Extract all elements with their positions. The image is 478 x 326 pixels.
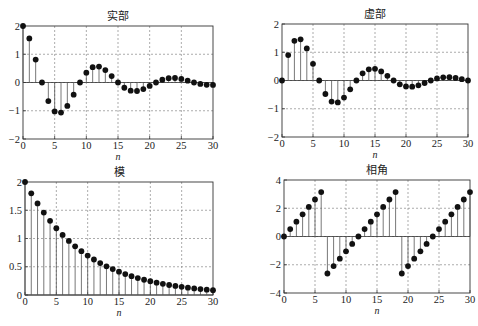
x-tick-label: 20 [145, 296, 156, 307]
x-tick-label: 15 [370, 138, 381, 149]
data-point [64, 103, 70, 109]
x-tick-label: 0 [20, 140, 25, 151]
subplot-phase: 051015202530−4−2024 相角 n [270, 164, 475, 316]
x-tick-label: 15 [372, 294, 383, 305]
data-point [166, 75, 172, 81]
data-point [115, 80, 121, 86]
data-point [197, 81, 203, 87]
data-point [372, 66, 378, 72]
x-axis-label: n [116, 151, 121, 162]
data-point [102, 67, 108, 73]
y-tick-label: 1 [15, 49, 20, 60]
data-point [418, 248, 424, 254]
plot-area: 051015202530−4−2024 [270, 175, 475, 306]
data-point [360, 70, 366, 76]
data-point [399, 271, 405, 277]
data-point [368, 219, 374, 225]
data-point [461, 197, 467, 203]
figure-canvas: 051015202530−2−1012 实部 n 051015202530−2−… [0, 0, 478, 326]
data-point [41, 210, 47, 216]
data-point [306, 204, 312, 210]
data-point [294, 219, 300, 225]
data-point [341, 95, 347, 101]
data-point [281, 234, 287, 240]
data-point [191, 286, 197, 292]
data-point [22, 179, 28, 185]
data-point [20, 23, 26, 29]
subplot-title: 相角 [366, 164, 388, 176]
y-tick-label: 2 [276, 203, 281, 214]
data-point [204, 287, 210, 293]
y-tick-label: 1.5 [9, 205, 22, 216]
data-point [279, 78, 285, 84]
y-tick-label: −2 [270, 259, 281, 270]
data-point [134, 88, 140, 94]
data-point [300, 211, 306, 217]
data-point [428, 78, 434, 84]
x-axis-label: n [373, 149, 378, 160]
data-point [104, 263, 110, 269]
data-point [191, 80, 197, 86]
data-point [210, 287, 216, 293]
data-point [442, 219, 448, 225]
data-point [47, 218, 53, 224]
y-tick-label: −2 [268, 132, 279, 143]
data-point [178, 76, 184, 82]
data-point [447, 74, 453, 80]
data-point [304, 46, 310, 52]
x-tick-label: 5 [52, 140, 57, 151]
x-tick-label: 15 [114, 296, 125, 307]
data-point [128, 88, 134, 94]
y-tick-label: −1 [268, 103, 279, 114]
data-point [35, 201, 41, 207]
x-axis-label: n [117, 307, 122, 318]
data-point [109, 73, 115, 79]
x-tick-label: 30 [208, 140, 219, 151]
data-point [122, 271, 128, 277]
figure: 051015202530−2−1012 实部 n 051015202530−2−… [0, 0, 478, 326]
plot-area: 05101520253000.511.52 [9, 177, 218, 308]
x-tick-label: 25 [176, 296, 187, 307]
data-point [405, 263, 411, 269]
stems [22, 179, 216, 295]
data-point [71, 92, 77, 98]
data-point [83, 70, 89, 76]
data-point [356, 234, 362, 240]
x-tick-label: 10 [341, 294, 352, 305]
data-point [179, 284, 185, 290]
data-point [366, 66, 372, 72]
plot-area: 051015202530−2−1012 [9, 21, 218, 152]
y-tick-label: 0.5 [9, 261, 22, 272]
subplot-title: 实部 [107, 9, 129, 22]
data-point [45, 98, 51, 104]
data-point [325, 271, 331, 277]
x-tick-label: 30 [208, 296, 219, 307]
y-tick-label: 1 [17, 233, 22, 244]
data-point [467, 189, 473, 195]
x-tick-label: 10 [82, 296, 93, 307]
subplot-real: 051015202530−2−1012 实部 n [9, 9, 218, 162]
data-point [52, 108, 58, 114]
data-point [39, 80, 45, 86]
data-point [60, 232, 66, 238]
data-point [409, 84, 415, 90]
data-point [310, 61, 316, 67]
data-point [292, 38, 298, 44]
y-tick-label: 2 [15, 21, 20, 32]
data-point [298, 36, 304, 42]
plot-area: 051015202530−2−1012 [268, 19, 473, 150]
y-tick-label: 2 [274, 19, 279, 30]
data-point [160, 281, 166, 287]
data-point [166, 282, 172, 288]
data-point [172, 75, 178, 81]
data-point [316, 78, 322, 84]
data-point [323, 91, 329, 97]
data-point [329, 99, 335, 105]
data-point [185, 78, 191, 84]
data-point [141, 277, 147, 283]
data-point [129, 273, 135, 279]
stems [20, 23, 216, 115]
y-tick-label: −1 [9, 105, 20, 116]
data-point [449, 211, 455, 217]
data-point [287, 226, 293, 232]
